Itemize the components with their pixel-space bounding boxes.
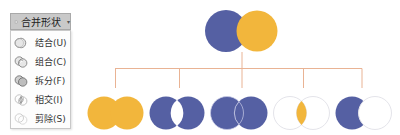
result-subtract <box>336 97 392 130</box>
result-fragment <box>211 97 268 130</box>
yellow-circle <box>237 11 278 52</box>
connector-lines <box>115 52 362 88</box>
source-shapes <box>205 10 278 52</box>
merge-shapes-diagram <box>0 0 400 135</box>
result-intersect <box>274 97 330 130</box>
result-union <box>88 97 144 130</box>
